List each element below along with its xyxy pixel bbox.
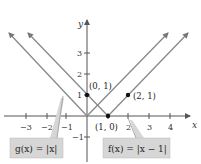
y-tick-1: 1 [77,91,82,100]
x-axis-label: x [192,120,197,130]
x-tick-3: 3 [147,123,152,132]
label-f: f(x) = |x − 1| [108,144,167,155]
y-tick-neg1: −1 [72,133,84,142]
label-point-2-1: (2, 1) [133,91,156,101]
callout-g: g(x) = |x| [10,96,64,158]
point-0-1 [85,93,89,97]
x-tick-neg2: −2 [41,123,53,132]
absolute-value-graph: x y −3 −2 −1 2 3 4 3 2 1 −1 [0,0,201,164]
label-point-1-0: (1, 0) [95,122,118,132]
x-tick-neg3: −3 [20,123,32,132]
y-tick-3: 3 [77,49,82,58]
label-point-0-1: (0, 1) [89,81,112,91]
x-tick-4: 4 [168,123,173,132]
y-axis-label: y [77,19,84,29]
y-tick-2: 2 [77,70,82,79]
label-g: g(x) = |x| [15,144,57,155]
point-1-0 [106,114,110,118]
y-tick-labels: 3 2 1 −1 [72,49,84,142]
x-tick-neg1: −1 [61,123,73,132]
series-f [28,33,188,116]
point-2-1 [126,93,130,97]
